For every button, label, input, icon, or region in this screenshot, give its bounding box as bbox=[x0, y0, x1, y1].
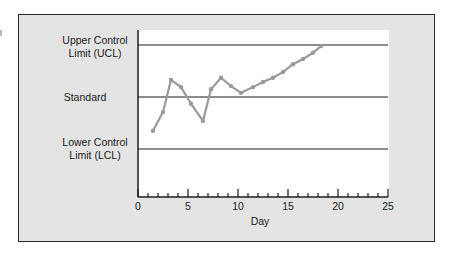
x-tick-label: 0 bbox=[135, 200, 141, 212]
data-point bbox=[201, 119, 205, 123]
data-point bbox=[161, 110, 165, 114]
data-point bbox=[291, 62, 295, 66]
data-point bbox=[261, 80, 265, 84]
data-point bbox=[219, 76, 223, 80]
data-point bbox=[271, 76, 275, 80]
data-point bbox=[281, 70, 285, 74]
x-tick-label: 10 bbox=[232, 200, 244, 212]
data-point bbox=[251, 85, 255, 89]
data-point bbox=[179, 85, 183, 89]
data-point bbox=[169, 78, 173, 82]
x-tick-label: 20 bbox=[332, 200, 344, 212]
data-point bbox=[319, 44, 323, 48]
data-point bbox=[189, 102, 193, 106]
x-tick-label: 15 bbox=[282, 200, 294, 212]
data-point bbox=[151, 129, 155, 133]
data-line bbox=[153, 46, 321, 131]
x-tick-label: 25 bbox=[382, 200, 394, 212]
data-point bbox=[229, 84, 233, 88]
chart-svg bbox=[0, 0, 452, 256]
data-point bbox=[209, 87, 213, 91]
data-point bbox=[301, 57, 305, 61]
data-point bbox=[311, 51, 315, 55]
data-point bbox=[239, 91, 243, 95]
x-axis-title: Day bbox=[251, 215, 270, 227]
x-tick-label: 5 bbox=[185, 200, 191, 212]
